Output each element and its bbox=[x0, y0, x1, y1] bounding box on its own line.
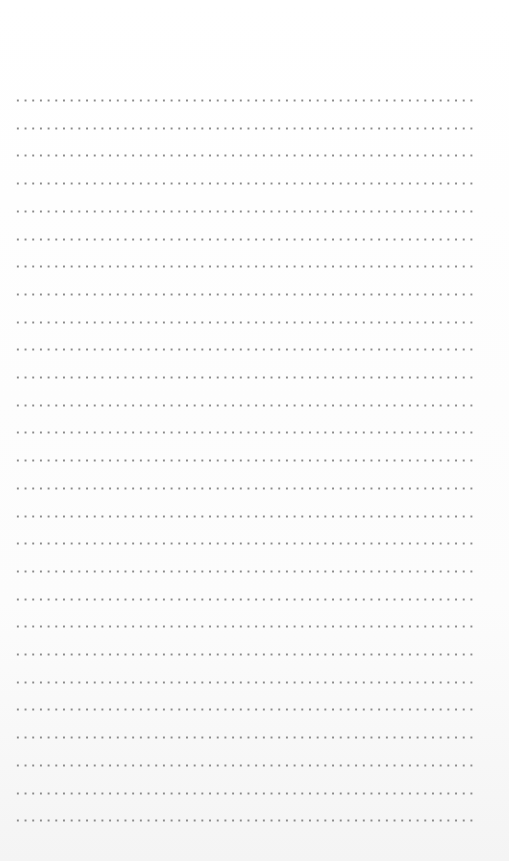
dotted-line bbox=[14, 293, 476, 296]
blank-dotted-note-page bbox=[0, 0, 509, 861]
dotted-line bbox=[14, 265, 476, 268]
dotted-line bbox=[14, 99, 476, 102]
dotted-line bbox=[14, 542, 476, 545]
dotted-line bbox=[14, 376, 476, 379]
dotted-line bbox=[14, 182, 476, 185]
dotted-line bbox=[14, 625, 476, 628]
dotted-line bbox=[14, 431, 476, 434]
dotted-line bbox=[14, 819, 476, 822]
dotted-line bbox=[14, 321, 476, 324]
dotted-line bbox=[14, 736, 476, 739]
dotted-line bbox=[14, 238, 476, 241]
dotted-line bbox=[14, 708, 476, 711]
dotted-line bbox=[14, 459, 476, 462]
dotted-line bbox=[14, 764, 476, 767]
dotted-line bbox=[14, 598, 476, 601]
dotted-line bbox=[14, 487, 476, 490]
dotted-line bbox=[14, 515, 476, 518]
dotted-line bbox=[14, 570, 476, 573]
dotted-line bbox=[14, 653, 476, 656]
dotted-line bbox=[14, 348, 476, 351]
dotted-line bbox=[14, 404, 476, 407]
dotted-line bbox=[14, 154, 476, 157]
dotted-line bbox=[14, 210, 476, 213]
dotted-line bbox=[14, 127, 476, 130]
dotted-line bbox=[14, 681, 476, 684]
dotted-line bbox=[14, 792, 476, 795]
